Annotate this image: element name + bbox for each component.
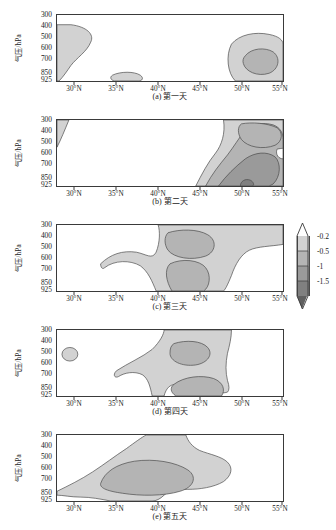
y-tick-925: 925 — [41, 286, 52, 293]
colorbar-body: -0.2 -0.5 -1 -1.5 — [297, 236, 308, 296]
y-tick-400: 400 — [41, 337, 52, 344]
y-tick-300: 300 — [41, 116, 52, 123]
y-tick-700: 700 — [41, 160, 52, 167]
y-tick-500: 500 — [41, 138, 52, 145]
panel-caption-d: (d) 第四天 — [56, 408, 284, 417]
y-axis-label-e: 气压/hPa — [11, 434, 24, 502]
panel-caption-e: (e) 第五天 — [56, 513, 284, 522]
plot-area-b — [56, 119, 284, 187]
colorbar-label-2: -0.5 — [317, 248, 329, 256]
y-tick-700: 700 — [41, 55, 52, 62]
y-tick-925: 925 — [41, 181, 52, 188]
y-tick-500: 500 — [41, 453, 52, 460]
y-tick-700: 700 — [41, 475, 52, 482]
y-tick-925: 925 — [41, 76, 52, 83]
panel-caption-c: (c) 第三天 — [56, 303, 284, 312]
y-axis-ticks-c: 300 400 500 600 700 850 925 — [24, 224, 54, 292]
y-tick-300: 300 — [41, 221, 52, 228]
panel-caption-a: (a) 第一天 — [56, 93, 284, 102]
y-axis-label-b: 气压/hPa — [11, 119, 24, 187]
y-tick-400: 400 — [41, 22, 52, 29]
colorbar-label-4: -1.5 — [317, 278, 329, 286]
y-tick-400: 400 — [41, 127, 52, 134]
y-tick-925: 925 — [41, 391, 52, 398]
y-tick-700: 700 — [41, 265, 52, 272]
y-tick-600: 600 — [41, 359, 52, 366]
y-axis-ticks-a: 300 400 500 600 700 850 925 — [24, 14, 54, 82]
panel-b: 气压/hPa 300 400 500 600 700 850 925 — [0, 105, 290, 210]
plot-area-c — [56, 224, 284, 292]
colorbar-label-1: -0.2 — [317, 233, 329, 241]
y-tick-400: 400 — [41, 232, 52, 239]
y-tick-600: 600 — [41, 149, 52, 156]
y-tick-600: 600 — [41, 464, 52, 471]
y-tick-500: 500 — [41, 348, 52, 355]
plot-area-d — [56, 329, 284, 397]
panel-c: 气压/hPa 300 400 500 600 700 850 925 — [0, 210, 290, 315]
y-axis-ticks-b: 300 400 500 600 700 850 925 — [24, 119, 54, 187]
plot-area-a — [56, 14, 284, 82]
plot-area-e — [56, 434, 284, 502]
colorbar-outline — [296, 222, 309, 310]
panel-d: 气压/hPa 300 400 500 600 700 850 925 — [0, 315, 290, 420]
y-tick-600: 600 — [41, 44, 52, 51]
y-tick-400: 400 — [41, 442, 52, 449]
y-axis-ticks-e: 300 400 500 600 700 850 925 — [24, 434, 54, 502]
y-tick-300: 300 — [41, 326, 52, 333]
y-tick-300: 300 — [41, 11, 52, 18]
y-tick-500: 500 — [41, 243, 52, 250]
colorbar: -0.2 -0.5 -1 -1.5 — [292, 222, 336, 310]
y-tick-500: 500 — [41, 33, 52, 40]
y-tick-600: 600 — [41, 254, 52, 261]
y-axis-ticks-d: 300 400 500 600 700 850 925 — [24, 329, 54, 397]
panel-caption-b: (b) 第二天 — [56, 198, 284, 207]
y-axis-label-c: 气压/hPa — [11, 224, 24, 292]
y-axis-label-a: 气压/hPa — [11, 14, 24, 82]
panel-e: 气压/hPa 300 400 500 600 700 850 925 — [0, 420, 290, 525]
y-tick-300: 300 — [41, 431, 52, 438]
panel-a: 气压/hPa 300 400 500 600 700 850 925 — [0, 0, 290, 105]
colorbar-label-3: -1 — [317, 263, 323, 271]
figure-container: 气压/hPa 300 400 500 600 700 850 925 — [0, 0, 336, 530]
y-axis-label-d: 气压/hPa — [11, 329, 24, 397]
y-tick-700: 700 — [41, 370, 52, 377]
y-tick-925: 925 — [41, 496, 52, 503]
